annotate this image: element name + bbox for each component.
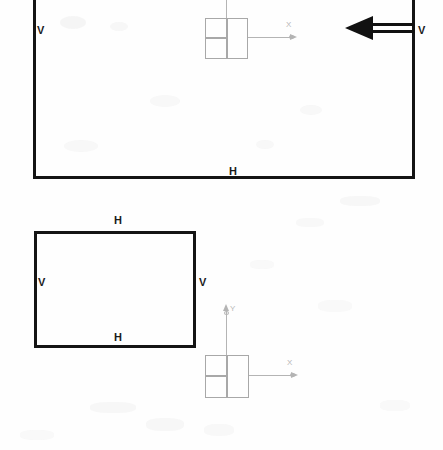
coordinate-system-symbol-lower: Y X (205, 303, 315, 403)
scan-artifact (20, 430, 54, 440)
scan-artifact (204, 424, 234, 436)
scan-artifact (380, 400, 410, 411)
coordinate-system-symbol-upper: X (205, 0, 315, 72)
ucs-y-axis-marker-lower (224, 311, 229, 315)
ucs-divider-vertical-upper (226, 18, 228, 59)
scan-artifact (146, 418, 184, 431)
ucs-y-axis-upper (226, 0, 227, 18)
ucs-x-axis-marker-lower (290, 373, 295, 377)
scan-artifact (340, 196, 380, 206)
scan-artifact (318, 300, 352, 312)
upper-rect-left-edge-label: V (37, 25, 44, 36)
ucs-y-axis-label-lower: Y (230, 305, 235, 313)
lower-rect-right-edge-label: V (199, 277, 206, 288)
lower-rect-bottom-edge-label: H (114, 332, 122, 343)
lower-rect-left-edge-label: V (38, 277, 45, 288)
ucs-divider-vertical-lower (226, 355, 228, 398)
scan-artifact (90, 402, 136, 413)
ucs-divider-horizontal-lower (205, 375, 227, 377)
ucs-x-axis-lower (249, 375, 293, 376)
ucs-x-axis-marker-upper (289, 35, 294, 39)
upper-rect-bottom-edge-label: H (229, 166, 237, 177)
ucs-x-axis-label-upper: X (286, 21, 291, 29)
ucs-y-axis-arrow-lower (223, 304, 229, 311)
ucs-y-axis-lower (226, 311, 227, 355)
flow-direction-arrow (345, 16, 415, 40)
arrow-shaft-upper (371, 23, 415, 26)
ucs-x-axis-upper (248, 37, 292, 38)
lower-rect-top-edge-label: H (114, 215, 122, 226)
scan-artifact (250, 260, 274, 269)
scan-artifact (296, 218, 324, 227)
ucs-divider-horizontal-upper (205, 37, 227, 39)
arrow-shaft-lower (371, 30, 415, 33)
ucs-x-axis-label-lower: X (287, 359, 292, 367)
drawing-canvas: V V H X H V V H (0, 0, 443, 450)
arrow-head-icon (345, 16, 373, 40)
upper-rect-right-edge-label: V (418, 25, 425, 36)
